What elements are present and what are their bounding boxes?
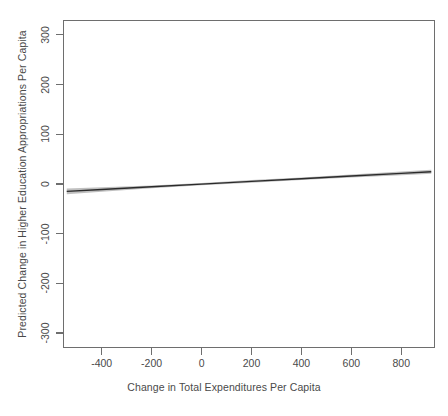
y-tick-mark bbox=[56, 34, 63, 35]
chart-figure: -300-200-1000100200300 -400-200020040060… bbox=[0, 0, 448, 416]
y-tick-mark bbox=[56, 233, 63, 234]
y-tick-mark bbox=[56, 183, 63, 184]
y-tick-label-wrap: 300 bbox=[36, 29, 54, 41]
regression-line bbox=[67, 172, 432, 192]
y-tick-label-wrap: -300 bbox=[36, 327, 54, 339]
y-tick-label: -100 bbox=[39, 223, 51, 244]
y-tick-label: 100 bbox=[39, 126, 51, 144]
x-tick-mark bbox=[201, 348, 202, 355]
x-tick-mark bbox=[251, 348, 252, 355]
y-axis-title-wrap: Predicted Change in Higher Education App… bbox=[14, 20, 30, 348]
x-axis-title: Change in Total Expenditures Per Capita bbox=[0, 381, 448, 393]
y-tick-label-wrap: 100 bbox=[36, 128, 54, 140]
y-tick-label: 200 bbox=[39, 76, 51, 94]
x-tick-mark bbox=[301, 348, 302, 355]
y-tick-label-wrap: 0 bbox=[36, 178, 54, 190]
x-tick-mark bbox=[151, 348, 152, 355]
y-tick-label: -200 bbox=[39, 273, 51, 294]
y-tick-label-wrap: -100 bbox=[36, 228, 54, 240]
y-tick-mark bbox=[56, 283, 63, 284]
y-tick-mark bbox=[56, 134, 63, 135]
x-tick-mark bbox=[351, 348, 352, 355]
y-tick-mark bbox=[56, 332, 63, 333]
y-tick-label: 0 bbox=[39, 181, 51, 187]
y-tick-label: 300 bbox=[39, 26, 51, 44]
y-axis-title: Predicted Change in Higher Education App… bbox=[16, 30, 28, 337]
y-tick-mark bbox=[56, 84, 63, 85]
x-tick-label: -200 bbox=[141, 357, 162, 369]
plot-data-area bbox=[63, 20, 435, 348]
y-tick-label: -300 bbox=[39, 323, 51, 344]
y-tick-label-wrap: -200 bbox=[36, 277, 54, 289]
x-tick-label: 200 bbox=[243, 357, 261, 369]
x-tick-label: 0 bbox=[199, 357, 205, 369]
x-tick-label: 600 bbox=[343, 357, 361, 369]
y-tick-label-wrap: 200 bbox=[36, 79, 54, 91]
x-tick-label: 800 bbox=[393, 357, 411, 369]
x-tick-mark bbox=[401, 348, 402, 355]
x-tick-mark bbox=[101, 348, 102, 355]
x-tick-label: 400 bbox=[293, 357, 311, 369]
plot-svg bbox=[63, 20, 435, 348]
x-tick-label: -400 bbox=[91, 357, 112, 369]
